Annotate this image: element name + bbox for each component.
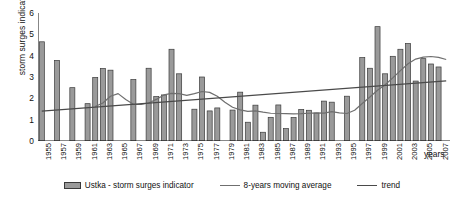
trend-line-swatch-icon <box>357 185 377 186</box>
x-tick-label-1973: 1973 <box>182 143 190 160</box>
bar-1990 <box>306 110 311 141</box>
bar-1972 <box>169 49 174 141</box>
x-tick-label-1975: 1975 <box>197 143 205 160</box>
x-tick-label-1961: 1961 <box>91 143 99 160</box>
x-tick-label-1967: 1967 <box>136 143 144 160</box>
bar-1969 <box>146 68 151 141</box>
x-tick-label-1983: 1983 <box>258 143 266 160</box>
x-tick-label-1979: 1979 <box>228 143 236 160</box>
x-tick-label-1995: 1995 <box>350 143 358 160</box>
bar-1980 <box>230 110 235 141</box>
x-tick-label-1981: 1981 <box>243 143 251 160</box>
bar-2001 <box>390 56 395 141</box>
bar-1962 <box>93 77 98 141</box>
y-tick-label-3: 3 <box>29 73 34 81</box>
bar-1955 <box>39 42 44 141</box>
x-tick-label-1987: 1987 <box>289 143 297 160</box>
bar-1993 <box>329 102 334 141</box>
bar-1973 <box>177 74 182 141</box>
bar-1988 <box>291 118 296 141</box>
plot-area: 0123456 <box>38 13 450 141</box>
y-tick-label-6: 6 <box>29 9 34 17</box>
bar-1987 <box>283 129 288 141</box>
bar-2007 <box>436 67 441 141</box>
legend-label-moving-average: 8-years moving average <box>244 181 332 190</box>
x-tick-label-1971: 1971 <box>167 143 175 160</box>
bar-1961 <box>85 104 90 141</box>
bar-1963 <box>100 68 105 141</box>
legend-item-moving-average: 8-years moving average <box>220 181 332 190</box>
bar-1967 <box>131 80 136 141</box>
bar-1992 <box>322 101 327 141</box>
y-tick-label-0: 0 <box>29 137 34 145</box>
x-tick-label-1955: 1955 <box>45 143 53 160</box>
bar-1991 <box>314 113 319 141</box>
bar-1997 <box>360 58 365 141</box>
bar-1978 <box>215 108 220 141</box>
bar-2006 <box>428 64 433 141</box>
x-tick-label-1977: 1977 <box>213 143 221 160</box>
x-tick-label-1993: 1993 <box>335 143 343 160</box>
bar-1976 <box>200 77 205 141</box>
x-tick-label-1965: 1965 <box>121 143 129 160</box>
bar-1957 <box>55 60 60 141</box>
bar-2005 <box>421 59 426 141</box>
legend-item-trend: trend <box>357 181 400 190</box>
bar-1981 <box>238 92 243 141</box>
bar-1998 <box>367 68 372 141</box>
bar-swatch-icon <box>64 182 81 189</box>
bar-1977 <box>207 111 212 141</box>
bar-1995 <box>344 96 349 141</box>
legend-item-bars: Ustka - storm surges indicator <box>64 181 194 190</box>
x-tick-label-2001: 2001 <box>396 143 404 160</box>
x-axis-tick-labels: 1955195719591961196319651967196919711973… <box>38 143 450 173</box>
bar-2002 <box>398 49 403 141</box>
y-tick-label-5: 5 <box>29 30 34 38</box>
x-tick-label-1989: 1989 <box>304 143 312 160</box>
y-axis-title: storm surges indicator <box>17 0 27 101</box>
bar-1986 <box>276 105 281 141</box>
chart-canvas <box>38 13 450 141</box>
x-tick-label-1957: 1957 <box>60 143 68 160</box>
x-axis-title: years <box>424 149 444 159</box>
bar-1984 <box>261 132 266 141</box>
bar-2003 <box>406 44 411 141</box>
x-tick-label-1985: 1985 <box>274 143 282 160</box>
legend-label-trend: trend <box>381 181 400 190</box>
bar-1999 <box>375 27 380 141</box>
bar-1959 <box>70 88 75 141</box>
bar-2004 <box>413 81 418 141</box>
bar-1982 <box>245 122 250 141</box>
line-swatch-icon <box>220 185 240 186</box>
chart-figure: storm surges indicator 0123456 195519571… <box>0 0 464 200</box>
y-tick-label-2: 2 <box>29 94 34 102</box>
x-tick-label-1969: 1969 <box>152 143 160 160</box>
x-tick-label-1963: 1963 <box>106 143 114 160</box>
legend-label-bars: Ustka - storm surges indicator <box>85 181 194 190</box>
x-tick-label-1997: 1997 <box>365 143 373 160</box>
bar-1985 <box>268 117 273 141</box>
x-tick-label-2003: 2003 <box>411 143 419 160</box>
x-tick-label-1959: 1959 <box>75 143 83 160</box>
y-tick-label-4: 4 <box>29 51 34 59</box>
chart-legend: Ustka - storm surges indicator 8-years m… <box>0 176 464 194</box>
x-tick-label-1999: 1999 <box>381 143 389 160</box>
bar-1975 <box>192 109 197 141</box>
y-tick-label-1: 1 <box>29 115 34 123</box>
x-tick-label-1991: 1991 <box>319 143 327 160</box>
